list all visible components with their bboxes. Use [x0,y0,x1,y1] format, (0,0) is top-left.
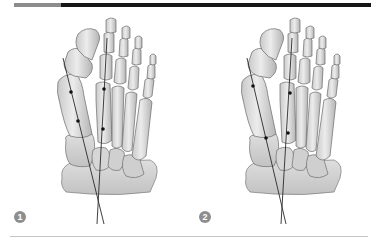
panel-2-second-axis-point [288,91,292,95]
panel-1-first-axis-point [76,119,80,123]
panel-1-second-axis-point [101,127,105,131]
bottom-divider [10,236,368,237]
panel-2-number-badge: 2 [199,211,211,223]
panel-2-second-axis-point [286,131,290,135]
foot-skeleton-figure: 1 2 [0,0,376,244]
panel-2-first-axis-point [264,136,268,140]
panel-1-foot [57,18,157,195]
panel-1-first-axis-point [69,90,73,94]
panel-1-number-badge: 1 [14,211,26,223]
panel-1-second-axis-point [102,87,106,91]
foot-illustrations [0,0,376,244]
panel-2-first-axis-point [251,84,255,88]
